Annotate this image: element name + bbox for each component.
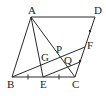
label-P: P bbox=[56, 43, 62, 55]
segment-AB bbox=[12, 17, 31, 77]
segment-AC bbox=[31, 17, 75, 77]
label-B: B bbox=[7, 78, 14, 90]
label-D: D bbox=[94, 4, 102, 16]
label-C: C bbox=[72, 78, 79, 90]
label-F: F bbox=[87, 39, 93, 51]
tick-mark-DF bbox=[89, 30, 91, 32]
label-G: G bbox=[41, 51, 49, 63]
parallelogram-diagram: A D B C E F G P Q bbox=[0, 0, 106, 96]
label-Q: Q bbox=[64, 54, 72, 66]
geometry-figure: A D B C E F G P Q bbox=[0, 0, 106, 96]
label-A: A bbox=[28, 4, 36, 16]
segment-E-to-CF bbox=[43, 62, 80, 77]
tick-mark-FC bbox=[79, 60, 81, 62]
label-E: E bbox=[40, 78, 47, 90]
